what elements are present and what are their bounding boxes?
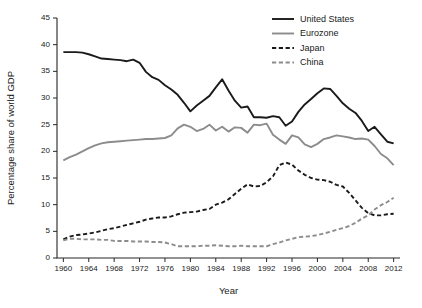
y-tick-label: 0 <box>46 253 51 262</box>
legend-label-united-states: United States <box>300 14 355 24</box>
x-tick-label: 2000 <box>309 264 327 273</box>
x-tick-label: 1964 <box>80 264 98 273</box>
y-tick-label: 30 <box>41 93 50 102</box>
y-tick-label: 10 <box>41 200 50 209</box>
y-tick-label: 15 <box>41 173 50 182</box>
y-tick-label: 5 <box>46 226 51 235</box>
x-tick-label: 1988 <box>232 264 250 273</box>
gdp-share-line-chart: 051015202530354045 196019641968197219761… <box>0 0 422 308</box>
x-tick-label: 1984 <box>207 264 225 273</box>
x-tick-label: 1976 <box>156 264 174 273</box>
y-tick-label: 20 <box>41 146 50 155</box>
x-tick-label: 1980 <box>181 264 199 273</box>
x-tick-label: 1996 <box>283 264 301 273</box>
x-tick-label: 1960 <box>54 264 72 273</box>
x-tick-label: 1972 <box>131 264 149 273</box>
x-axis-title: Year <box>219 285 238 296</box>
legend-label-eurozone: Eurozone <box>300 28 339 38</box>
x-tick-label: 2012 <box>385 264 403 273</box>
y-tick-label: 25 <box>41 120 50 129</box>
y-tick-label: 45 <box>41 13 50 22</box>
legend-label-china: China <box>300 57 324 67</box>
y-tick-label: 35 <box>41 66 50 75</box>
y-axis-title: Percentage share of world GDP <box>5 71 16 205</box>
x-tick-label: 1968 <box>105 264 123 273</box>
y-tick-label: 40 <box>41 40 50 49</box>
legend-label-japan: Japan <box>300 43 325 53</box>
x-tick-label: 2008 <box>359 264 377 273</box>
chart-figure: 051015202530354045 196019641968197219761… <box>0 0 422 308</box>
x-tick-label: 1992 <box>258 264 276 273</box>
x-tick-label: 2004 <box>334 264 352 273</box>
